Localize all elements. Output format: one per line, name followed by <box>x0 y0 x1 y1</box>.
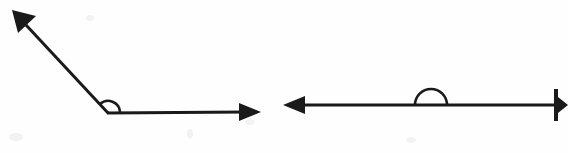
angle-diagram-figure <box>0 0 568 153</box>
right-end-tick-icon <box>554 89 558 121</box>
horizontal-right-ray <box>107 112 246 113</box>
figure-background <box>0 0 568 153</box>
diagram-svg-canvas <box>0 0 568 153</box>
